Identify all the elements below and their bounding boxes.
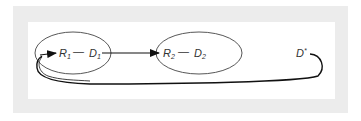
node-r2: R2 bbox=[163, 47, 175, 60]
connector-r1-d1: — bbox=[72, 45, 85, 57]
node-d2: D2 bbox=[194, 47, 206, 60]
arrow-into-r1 bbox=[40, 53, 56, 55]
diagram-svg: R1 — D1 R2 — D2 D* bbox=[0, 0, 361, 121]
node-dstar: D* bbox=[296, 47, 307, 59]
node-r1: R1 bbox=[59, 47, 71, 60]
feedback-curve-dstar-to-r1 bbox=[37, 54, 322, 84]
connector-r2-d2: — bbox=[177, 45, 190, 57]
node-d1: D1 bbox=[89, 47, 101, 60]
